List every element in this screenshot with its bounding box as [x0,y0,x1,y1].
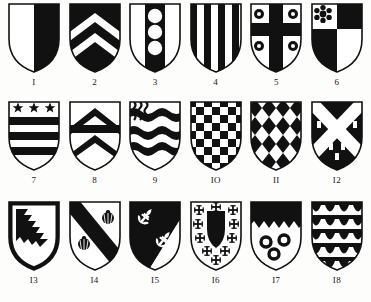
shield-2[interactable] [67,1,123,75]
shield-18[interactable] [309,199,365,273]
shield-caption: I2 [333,176,341,185]
shield-10[interactable] [188,99,244,173]
shield-caption: 2 [92,78,97,87]
shield-cell-9[interactable]: 9 [127,99,183,185]
shield-caption: 3 [153,78,158,87]
shield-3[interactable] [127,1,183,75]
shield-12[interactable] [309,99,365,173]
shield-15[interactable] [127,199,183,273]
heraldic-plate: I 2 [0,0,371,302]
shield-cell-17[interactable]: I7 [248,199,304,285]
shield-8[interactable] [67,99,123,173]
shield-row-1: I 2 [0,1,371,101]
shield-cell-7[interactable]: 7 [6,99,62,185]
shield-caption: 5 [274,78,279,87]
shield-cell-2[interactable]: 2 [67,1,123,87]
shield-caption: 7 [32,176,37,185]
shield-cell-5[interactable]: 5 [248,1,304,87]
shield-5[interactable] [248,1,304,75]
shield-caption: 6 [335,78,340,87]
shield-cell-15[interactable]: I5 [127,199,183,285]
shield-caption: I3 [30,276,38,285]
shield-caption: I8 [333,276,341,285]
shield-cell-6[interactable]: 6 [309,1,365,87]
shield-row-3: I3 [0,199,371,299]
shield-14[interactable] [67,199,123,273]
shield-caption: IO [211,176,221,185]
shield-1[interactable] [6,1,62,75]
shield-cell-3[interactable]: 3 [127,1,183,87]
shield-cell-4[interactable]: 4 [188,1,244,87]
shield-cell-13[interactable]: I3 [6,199,62,285]
shield-caption: 9 [153,176,158,185]
shield-caption: I4 [90,276,98,285]
shield-cell-11[interactable]: II [248,99,304,185]
shield-caption: I [32,78,35,87]
shield-cell-12[interactable]: I2 [309,99,365,185]
shield-4[interactable] [188,1,244,75]
shield-17[interactable] [248,199,304,273]
shield-7[interactable] [6,99,62,173]
shield-caption: I6 [212,276,220,285]
shield-11[interactable] [248,99,304,173]
shield-cell-18[interactable]: I8 [309,199,365,285]
shield-16[interactable] [188,199,244,273]
shield-cell-8[interactable]: 8 [67,99,123,185]
shield-caption: II [273,176,280,185]
shield-row-2: 7 8 [0,99,371,199]
shield-6[interactable] [309,1,365,75]
shield-cell-1[interactable]: I [6,1,62,87]
shield-caption: 8 [92,176,97,185]
shield-9[interactable] [127,99,183,173]
shield-cell-10[interactable]: IO [188,99,244,185]
shield-cell-14[interactable]: I4 [67,199,123,285]
shield-caption: 4 [213,78,218,87]
shield-13[interactable] [6,199,62,273]
shield-cell-16[interactable]: I6 [188,199,244,285]
shield-caption: I7 [272,276,280,285]
shield-caption: I5 [151,276,159,285]
